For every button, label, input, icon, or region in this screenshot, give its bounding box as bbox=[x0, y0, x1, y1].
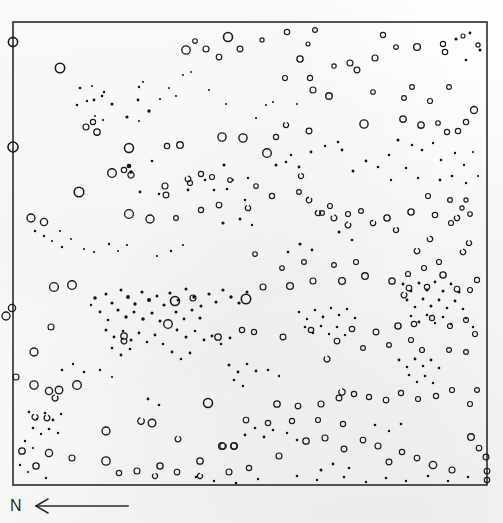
open-circle-marker bbox=[164, 143, 169, 148]
filled-dot-marker bbox=[79, 87, 82, 90]
filled-dot-marker bbox=[141, 317, 145, 321]
filled-dot-marker bbox=[397, 139, 400, 142]
filled-dot-marker bbox=[99, 369, 101, 371]
broken-circle-marker bbox=[197, 473, 202, 478]
open-circle-marker bbox=[380, 32, 385, 37]
filled-dot-marker bbox=[365, 481, 367, 483]
filled-dot-marker bbox=[133, 311, 136, 314]
open-circle-marker bbox=[94, 129, 100, 135]
open-circle-marker bbox=[108, 169, 117, 178]
filled-dot-marker bbox=[185, 336, 188, 339]
open-circle-marker bbox=[269, 193, 274, 198]
filled-dot-marker bbox=[314, 309, 317, 312]
open-circle-marker bbox=[386, 459, 392, 465]
filled-dot-marker bbox=[406, 366, 409, 369]
filled-dot-marker bbox=[105, 293, 108, 296]
open-circle-marker bbox=[50, 283, 59, 292]
filled-dot-marker bbox=[203, 339, 206, 342]
open-circle-marker bbox=[83, 124, 89, 130]
open-circle-marker bbox=[318, 401, 324, 407]
broken-circle-marker bbox=[138, 418, 145, 424]
filled-dot-marker bbox=[237, 301, 240, 304]
open-circle-marker bbox=[360, 120, 368, 128]
broken-circle-marker bbox=[370, 220, 375, 225]
filled-dot-marker bbox=[344, 334, 346, 336]
open-circle-marker bbox=[433, 393, 438, 398]
open-circle-marker bbox=[157, 463, 163, 469]
open-circle-marker bbox=[198, 171, 203, 176]
broken-circle-marker bbox=[393, 228, 398, 233]
filled-dot-marker bbox=[72, 363, 74, 365]
open-circle-marker bbox=[339, 278, 346, 285]
filled-dot-marker bbox=[229, 295, 232, 298]
filled-dot-marker bbox=[405, 167, 408, 170]
open-circle-marker bbox=[102, 427, 110, 435]
open-circle-marker bbox=[360, 437, 366, 443]
filled-dot-marker bbox=[140, 290, 143, 293]
open-circle-marker bbox=[429, 461, 436, 468]
filled-dot-marker bbox=[414, 306, 417, 309]
open-circle-marker bbox=[254, 184, 259, 189]
filled-dot-marker bbox=[93, 296, 97, 300]
open-circle-marker bbox=[414, 44, 421, 51]
filled-dot-marker bbox=[414, 358, 417, 361]
filled-dot-marker bbox=[247, 177, 249, 179]
filled-dot-marker bbox=[111, 103, 114, 106]
filled-dot-marker bbox=[27, 471, 29, 473]
filled-dot-marker bbox=[102, 119, 104, 121]
open-circle-marker bbox=[125, 210, 134, 219]
filled-dot-marker bbox=[45, 477, 47, 479]
open-circle-marker bbox=[455, 128, 460, 133]
filled-dot-marker bbox=[320, 325, 323, 328]
open-circle-marker bbox=[440, 272, 446, 278]
filled-dot-marker bbox=[465, 59, 468, 62]
filled-dot-marker bbox=[454, 300, 457, 303]
filled-dot-marker bbox=[246, 363, 249, 366]
filled-dot-marker bbox=[237, 371, 240, 374]
filled-dot-marker bbox=[28, 411, 31, 414]
figure-page: N bbox=[0, 0, 503, 523]
open-circle-marker bbox=[90, 119, 95, 124]
broken-circle-marker bbox=[306, 197, 312, 203]
filled-dot-marker bbox=[180, 358, 183, 361]
open-circle-marker bbox=[450, 388, 455, 393]
open-circle-marker bbox=[454, 286, 460, 292]
open-circle-marker bbox=[55, 63, 64, 72]
filled-dot-marker bbox=[442, 316, 445, 319]
broken-circle-marker bbox=[298, 174, 303, 179]
filled-dot-marker bbox=[156, 295, 159, 298]
open-circle-marker bbox=[251, 329, 256, 334]
filled-dot-marker bbox=[290, 154, 292, 156]
filled-dot-marker bbox=[213, 480, 215, 482]
open-circle-marker bbox=[341, 446, 347, 452]
open-circle-marker bbox=[429, 315, 434, 320]
filled-dot-marker bbox=[57, 432, 59, 434]
filled-dot-marker bbox=[182, 74, 184, 76]
open-circle-marker bbox=[340, 421, 345, 426]
filled-dot-marker bbox=[285, 161, 288, 164]
open-circle-marker bbox=[241, 294, 250, 303]
open-circle-marker bbox=[336, 395, 342, 401]
open-circle-marker bbox=[73, 381, 82, 390]
filled-dot-marker bbox=[183, 318, 186, 321]
open-circle-marker bbox=[45, 387, 52, 394]
filled-dot-marker bbox=[139, 191, 142, 194]
filled-dot-marker bbox=[120, 354, 123, 357]
broken-circle-marker bbox=[245, 206, 250, 211]
filled-dot-marker bbox=[51, 240, 53, 242]
open-circle-marker bbox=[448, 198, 453, 203]
filled-dot-marker bbox=[251, 224, 253, 226]
open-circle-marker bbox=[48, 324, 54, 330]
filled-dot-marker bbox=[125, 115, 128, 118]
open-circle-marker bbox=[27, 214, 35, 222]
open-circle-marker bbox=[354, 67, 360, 73]
broken-circle-marker bbox=[460, 249, 465, 254]
open-circle-marker bbox=[420, 348, 425, 353]
filled-dot-marker bbox=[150, 311, 153, 314]
filled-dot-marker bbox=[48, 428, 51, 431]
filled-dot-marker bbox=[406, 299, 409, 302]
filled-dot-marker bbox=[442, 290, 445, 293]
filled-dot-marker bbox=[117, 250, 119, 252]
open-circle-marker bbox=[361, 346, 366, 351]
open-circle-marker bbox=[182, 46, 190, 54]
